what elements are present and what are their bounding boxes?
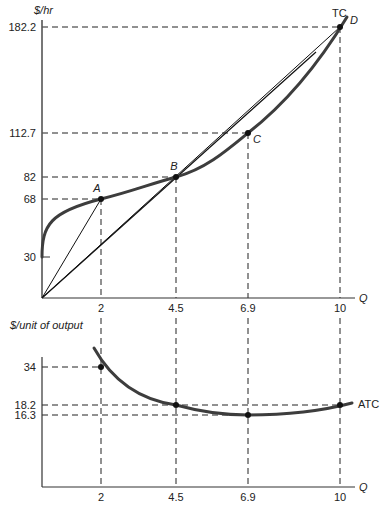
bottom-chart: $/unit of output 34 18.2 16.3 2 4.5 6.9 … <box>9 318 379 503</box>
label-A: A <box>92 182 100 194</box>
bottom-x-label: Q <box>359 481 368 493</box>
ytick-34: 34 <box>24 361 36 373</box>
xtick-2: 2 <box>98 302 104 314</box>
cost-curves-figure: $/hr 182.2 112.7 82 68 30 2 4.5 6.9 10 Q… <box>0 0 386 508</box>
ytick-30: 30 <box>24 251 36 263</box>
label-TC: TC <box>332 7 347 19</box>
bxtick-10: 10 <box>334 491 346 503</box>
bxtick-2: 2 <box>98 491 104 503</box>
bottom-guides <box>42 318 340 487</box>
ytick-182-2: 182.2 <box>8 21 36 33</box>
label-C: C <box>253 133 261 145</box>
point-B <box>173 174 179 180</box>
bxtick-6-9: 6.9 <box>240 491 255 503</box>
xtick-10: 10 <box>334 302 346 314</box>
top-chart: $/hr 182.2 112.7 82 68 30 2 4.5 6.9 10 Q… <box>8 4 368 314</box>
rays <box>42 27 340 298</box>
cost-curves-svg: $/hr 182.2 112.7 82 68 30 2 4.5 6.9 10 Q… <box>0 0 386 508</box>
top-y-label: $/hr <box>33 4 54 16</box>
point-D <box>337 24 343 30</box>
xtick-4-5: 4.5 <box>168 302 183 314</box>
label-ATC: ATC <box>358 398 379 410</box>
point-A <box>98 196 104 202</box>
top-x-label: Q <box>359 292 368 304</box>
ytick-82: 82 <box>24 171 36 183</box>
atc-point-2 <box>98 364 104 370</box>
point-C <box>245 130 251 136</box>
label-D: D <box>350 14 358 26</box>
atc-point-4-5 <box>173 402 179 408</box>
atc-point-10 <box>337 402 343 408</box>
atc-point-6-9 <box>245 412 251 418</box>
bottom-y-label: $/unit of output <box>9 319 84 331</box>
bxtick-4-5: 4.5 <box>168 491 183 503</box>
label-B: B <box>170 160 177 172</box>
ytick-16-3: 16.3 <box>15 409 36 421</box>
ray-to-A <box>42 199 101 298</box>
xtick-6-9: 6.9 <box>240 302 255 314</box>
ytick-68: 68 <box>24 193 36 205</box>
ytick-112-7: 112.7 <box>9 127 36 139</box>
